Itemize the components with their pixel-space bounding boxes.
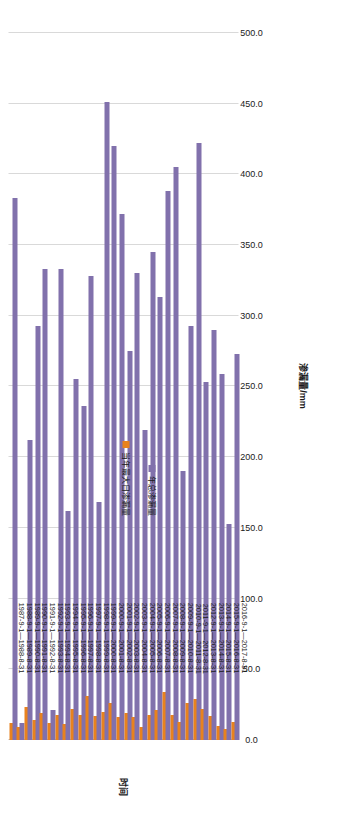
legend-swatch-icon bbox=[122, 441, 129, 448]
value-tick-label: 350.0 bbox=[240, 240, 263, 250]
rotated-chart-canvas: 0.050.0100.0150.0200.0250.0300.0350.0400… bbox=[0, 0, 363, 816]
value-axis-title: 渗漏量/mm bbox=[296, 364, 309, 410]
value-tick-label: 400.0 bbox=[240, 169, 263, 179]
value-tick-label: 0.0 bbox=[245, 735, 258, 745]
category-axis-title: 时间 bbox=[117, 778, 130, 796]
legend-item[interactable]: 年总渗漏量 bbox=[146, 465, 157, 516]
value-tick-label: 450.0 bbox=[240, 99, 263, 109]
leakage-bar-chart: 0.050.0100.0150.0200.0250.0300.0350.0400… bbox=[0, 0, 363, 816]
value-tick-label: 300.0 bbox=[240, 311, 263, 321]
legend-label: 年总渗漏量 bbox=[146, 476, 157, 516]
bar-total-leakage[interactable] bbox=[234, 354, 239, 740]
legend-label: 当年最大日渗漏量 bbox=[120, 452, 131, 516]
value-tick-label: 200.0 bbox=[240, 452, 263, 462]
value-tick-label: 150.0 bbox=[240, 523, 263, 533]
value-tick-label: 250.0 bbox=[240, 382, 263, 392]
legend-item[interactable]: 当年最大日渗漏量 bbox=[120, 441, 131, 516]
category-tick-label: 2016-9-1—2017-8-31 bbox=[239, 603, 248, 674]
value-tick-label: 500.0 bbox=[240, 28, 263, 38]
bar-group bbox=[8, 33, 16, 740]
legend-swatch-icon bbox=[148, 465, 155, 472]
